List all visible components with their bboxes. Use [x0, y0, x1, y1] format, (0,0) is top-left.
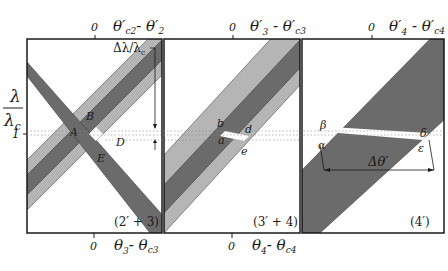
top-axis-zero: 0 [91, 21, 98, 34]
y-axis-lambda: λ [9, 86, 21, 106]
bottom-axis-zero: 0 [90, 240, 97, 253]
top-axis-zero: 0 [229, 21, 236, 34]
point-A: A [69, 126, 78, 139]
y-axis-label: λ λc 1 [3, 86, 27, 141]
delta-lambda-data: Δλ/λc [0, 0, 3, 1]
bottom-axis-zero: 0 [228, 240, 235, 253]
point-d: d [245, 123, 252, 136]
top-axis-label: θ′3 - θ′c3 [250, 17, 306, 37]
point-delta: δ [420, 127, 427, 140]
bottom-axis-label: θ4- θc4 [252, 236, 297, 256]
top-axis-zero: 0 [368, 21, 375, 34]
acceptance-diagram: λ λc 1 0 θ′c2- θ′2 0 θ3- θc3 Δλ/λc [0, 0, 448, 271]
point-B: B [85, 110, 94, 123]
top-axis-label: θ′4 - θ′c4 [389, 17, 445, 37]
point-E: E [96, 152, 105, 165]
point-D: D [115, 136, 125, 149]
point-a: a [218, 134, 225, 147]
y-tick-1: 1 [12, 127, 20, 141]
panel-caption: (3′ + 4) [253, 215, 298, 229]
point-epsilon: ε [418, 142, 424, 155]
panel-caption: (4′) [410, 215, 430, 229]
point-beta: β [319, 119, 326, 132]
point-alpha: α [318, 139, 326, 152]
panel-4prime: 0 θ′4 - θ′c4 Δθ′ α β δ ε (4′) [302, 17, 445, 233]
panel-2prime-3: 0 θ′c2- θ′2 0 θ3- θc3 Δλ/λc A B D E (2′ … [27, 17, 166, 256]
point-b: b [217, 117, 224, 130]
bottom-axis-label: θ3- θc3 [114, 236, 159, 256]
panel-3prime-4: 0 θ′3 - θ′c3 0 θ4- θc4 a b d e (3′ + 4) [164, 7, 306, 256]
top-axis-label: θ′c2- θ′2 [113, 17, 165, 36]
panel-caption: (2′ + 3) [114, 215, 159, 229]
point-e: e [241, 145, 248, 158]
delta-theta-label: Δθ′ [367, 154, 388, 169]
